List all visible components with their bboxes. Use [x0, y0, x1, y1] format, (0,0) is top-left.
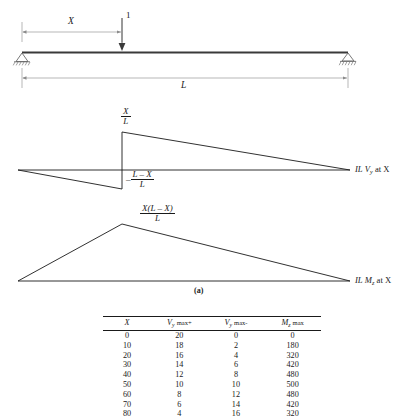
- moment-axis-subscript: z: [372, 279, 374, 286]
- table-cell: 180: [264, 340, 321, 350]
- header-vminus-suffix: max-: [234, 319, 247, 326]
- table-cell: 60: [103, 389, 151, 399]
- shear-influence-line-diagram: [18, 132, 350, 189]
- table-cell: 320: [264, 409, 321, 419]
- table-cell: 420: [264, 399, 321, 409]
- shear-positive-branch: [122, 132, 350, 170]
- table-row: 30146420: [103, 360, 321, 370]
- unit-load-arrow: [119, 18, 126, 51]
- table-cell: 30: [103, 360, 151, 370]
- table-row: 10182180: [103, 340, 321, 350]
- header-vplus-suffix: max+: [177, 319, 192, 326]
- table-header-cell-mzmax: Mz max: [264, 317, 321, 331]
- table-header-cell-x: X: [103, 317, 151, 331]
- table-cell: 10: [208, 380, 265, 390]
- table-cell: 8: [151, 389, 208, 399]
- moment-axis-label: IL Mz at X: [355, 275, 391, 286]
- moment-axis-prefix: IL: [355, 275, 363, 285]
- table-cell: 20: [103, 350, 151, 360]
- table-cell: 80: [103, 409, 151, 419]
- shear-axis-subscript: y: [370, 168, 373, 175]
- table-header: X Vy max+ Vy max- Mz max: [103, 317, 321, 331]
- dimension-l-label: L: [181, 80, 186, 90]
- moment-axis-suffix: at X: [377, 275, 392, 285]
- table-row: 02000: [103, 330, 321, 340]
- moment-triangle: [18, 224, 350, 281]
- table-cell: 16: [151, 350, 208, 360]
- shear-peak-negative-label: – L – X L: [126, 170, 154, 190]
- header-vminus-sub: y: [229, 322, 232, 328]
- shear-axis-suffix: at X: [375, 164, 390, 174]
- table-cell: 18: [151, 340, 208, 350]
- table-cell: 12: [208, 389, 265, 399]
- shear-negative-branch: [18, 170, 122, 189]
- table-header-cell-vymaxminus: Vy max-: [208, 317, 265, 331]
- table-cell: 420: [264, 360, 321, 370]
- table-row: 40128480: [103, 370, 321, 380]
- roller-support-icon: [339, 53, 356, 65]
- table-row: 80416320: [103, 409, 321, 419]
- table-cell: 8: [208, 370, 265, 380]
- table-cell: 12: [151, 370, 208, 380]
- table-cell: 10: [103, 340, 151, 350]
- table-cell: 4: [151, 409, 208, 419]
- table-cell: 16: [208, 409, 265, 419]
- table-header-row: X Vy max+ Vy max- Mz max: [103, 317, 321, 331]
- table-row: 60812480: [103, 389, 321, 399]
- table-cell: 480: [264, 389, 321, 399]
- table-cell: 40: [103, 370, 151, 380]
- table-cell: 320: [264, 350, 321, 360]
- table-cell: 6: [208, 360, 265, 370]
- shear-peak-neg-denominator: L: [131, 180, 154, 189]
- influence-summary-table: X Vy max+ Vy max- Mz max 020001018218020…: [103, 316, 321, 419]
- table-row: 501010500: [103, 380, 321, 390]
- moment-influence-line-diagram: [18, 224, 350, 281]
- table-cell: 480: [264, 370, 321, 380]
- table-cell: 2: [208, 340, 265, 350]
- table-cell: 50: [103, 380, 151, 390]
- table-cell: 14: [208, 399, 265, 409]
- table-header-cell-vymaxplus: Vy max+: [151, 317, 208, 331]
- beam-assembly: [13, 18, 356, 88]
- table-cell: 4: [208, 350, 265, 360]
- shear-peak-pos-denominator: L: [121, 117, 131, 126]
- table-cell: 0: [208, 330, 265, 340]
- table-row: 70614420: [103, 399, 321, 409]
- table-cell: 14: [151, 360, 208, 370]
- table-cell: 6: [151, 399, 208, 409]
- shear-axis-label: IL Vy at X: [355, 164, 390, 175]
- table-cell: 500: [264, 380, 321, 390]
- moment-axis-symbol: M: [365, 275, 372, 285]
- figure-caption: (a): [194, 286, 203, 295]
- pin-support-icon: [13, 53, 30, 65]
- table-body: 0200010182180201643203014642040128480501…: [103, 330, 321, 419]
- table-cell: 0: [264, 330, 321, 340]
- header-x-main: X: [124, 318, 129, 327]
- unit-load-label: 1: [126, 10, 131, 20]
- dimension-x-label: X: [68, 16, 74, 26]
- moment-peak-denominator: L: [140, 214, 175, 223]
- table-cell: 70: [103, 399, 151, 409]
- shear-peak-positive-label: X L: [121, 107, 131, 127]
- header-m-sub: z: [288, 322, 290, 328]
- header-m-suffix: max: [293, 319, 304, 326]
- shear-axis-prefix: IL: [355, 164, 363, 174]
- table-row: 20164320: [103, 350, 321, 360]
- moment-peak-label: X(L – X) L: [140, 204, 175, 224]
- table-cell: 20: [151, 330, 208, 340]
- table-cell: 0: [103, 330, 151, 340]
- table-cell: 10: [151, 380, 208, 390]
- header-vplus-sub: y: [172, 322, 175, 328]
